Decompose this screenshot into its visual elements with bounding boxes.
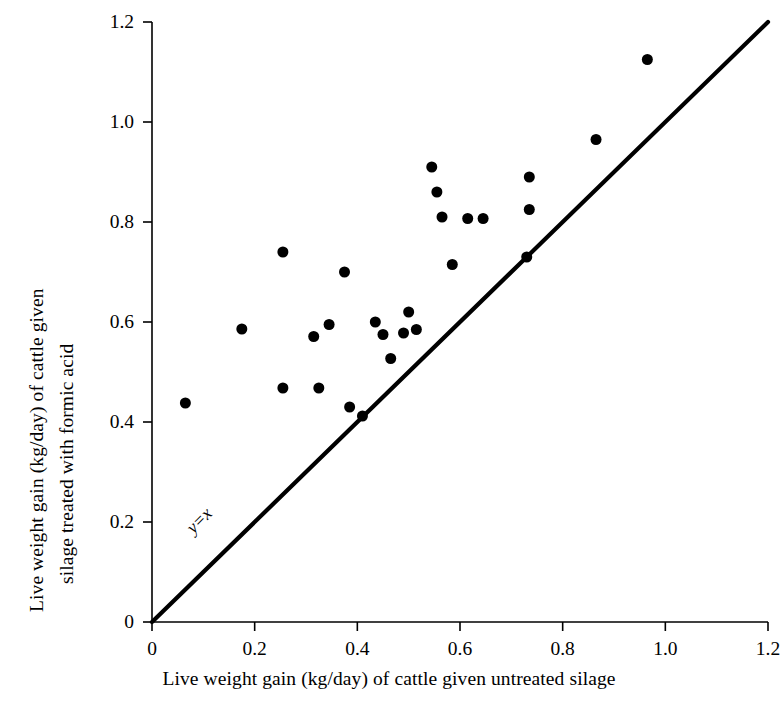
data-point bbox=[521, 252, 532, 263]
data-point bbox=[236, 324, 247, 335]
data-point bbox=[431, 187, 442, 198]
data-point bbox=[478, 213, 489, 224]
data-point bbox=[642, 54, 653, 65]
data-point bbox=[524, 172, 535, 183]
reference-line-label: y=x bbox=[181, 503, 216, 538]
data-point bbox=[324, 319, 335, 330]
data-point bbox=[403, 307, 414, 318]
data-point bbox=[180, 398, 191, 409]
data-point bbox=[447, 259, 458, 270]
data-point bbox=[385, 353, 396, 364]
data-point bbox=[308, 331, 319, 342]
data-point bbox=[344, 402, 355, 413]
data-point bbox=[524, 204, 535, 215]
data-point bbox=[339, 267, 350, 278]
data-point bbox=[370, 317, 381, 328]
data-point bbox=[398, 328, 409, 339]
data-point bbox=[462, 213, 473, 224]
data-point bbox=[437, 212, 448, 223]
data-point bbox=[411, 324, 422, 335]
identity-reference-line bbox=[152, 22, 768, 622]
data-point bbox=[277, 247, 288, 258]
data-point bbox=[426, 162, 437, 173]
data-point bbox=[378, 329, 389, 340]
data-point bbox=[277, 383, 288, 394]
data-point bbox=[591, 134, 602, 145]
data-point bbox=[313, 383, 324, 394]
data-point bbox=[357, 411, 368, 422]
